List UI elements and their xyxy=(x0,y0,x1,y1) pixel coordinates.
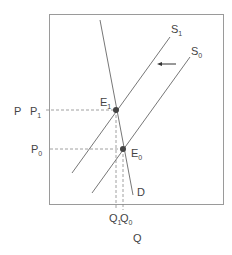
plot-frame xyxy=(50,15,224,205)
supply-demand-diagram: P P1 P0 E1 E0 S1 S0 D Q1 Q0 Q xyxy=(0,0,232,255)
equilibrium-e1-point xyxy=(113,107,119,113)
s1-label: S1 xyxy=(171,23,182,37)
p1-label: P1 xyxy=(30,105,41,119)
arrow-head-icon xyxy=(157,62,162,66)
demand-label: D xyxy=(137,186,145,198)
p0-label: P0 xyxy=(31,143,42,157)
e1-label: E1 xyxy=(100,96,111,110)
equilibrium-e0-point xyxy=(120,146,126,152)
s0-label: S0 xyxy=(191,45,202,59)
q0-label: Q0 xyxy=(120,212,133,226)
price-axis-label: P xyxy=(14,105,21,117)
quantity-axis-label: Q xyxy=(133,232,142,244)
e0-label: E0 xyxy=(131,147,142,161)
